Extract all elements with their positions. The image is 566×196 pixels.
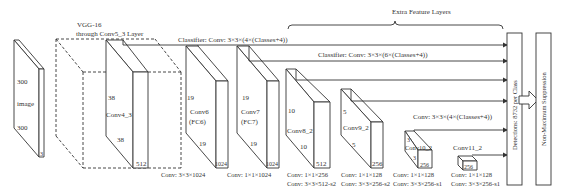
conv4-3-c: 512 (136, 160, 147, 168)
classifier-2-label: Classifier: Conv: 3×3×(6×(Classes+4)) (318, 51, 428, 59)
conv9-c: 256 (372, 160, 383, 168)
conv6-label: Conv6 (190, 108, 209, 116)
conv4-3-w: 38 (117, 136, 125, 144)
conv9-w: 5 (352, 141, 356, 149)
image-height: 300 (17, 78, 28, 86)
conv7-w: 19 (250, 140, 258, 148)
conv10-op1: Conv: 1×1×128 (393, 171, 434, 178)
conv8-c: 512 (316, 160, 327, 168)
conv11-op1: Conv: 1×1×128 (451, 171, 492, 178)
conv6-block (186, 46, 228, 168)
vgg-label-1: VGG-16 (77, 21, 102, 29)
image-label: image (17, 100, 34, 108)
classifier-1-label: Classifier: Conv: 3×3×(4×(Classes+4)) (178, 36, 288, 44)
conv10-label: Conv10_2 (405, 144, 432, 151)
input-image-block (14, 40, 44, 157)
conv7-sub: (FC7) (241, 118, 258, 126)
conv4-3-label: Conv4_3 (106, 111, 132, 119)
conv9-op2: Conv: 3×3×256-s2 (341, 180, 390, 187)
extra-feature-brace (288, 21, 503, 29)
conv6-op: Conv: 3×3×1024 (161, 171, 206, 178)
conv7-c: 1024 (266, 161, 278, 167)
image-width: 300 (17, 124, 28, 132)
conv8-op1: Conv: 1×1×256 (287, 171, 329, 178)
conv4-3-h: 38 (108, 94, 116, 102)
conv10-h: 3 (407, 137, 410, 143)
conv4-3-block (106, 40, 148, 168)
extra-feature-label: Extra Feature Layers (392, 8, 451, 16)
conv8-2-block (286, 69, 330, 168)
conv11-op2: Conv: 3×3×256-s1 (451, 180, 500, 187)
detections-label: Detections: 8732 per Class (511, 80, 518, 150)
image-channels: 3 (40, 151, 43, 157)
conv8-label: Conv8_2 (287, 127, 313, 135)
conv6-h: 19 (187, 94, 195, 102)
conv7-label: Conv7 (241, 108, 260, 116)
conv7-h: 19 (242, 94, 250, 102)
conv8-h: 10 (288, 107, 296, 115)
conv7-block (237, 46, 279, 168)
classifier-3-label: Conv: 3×3×(4×(Classes+4)) (413, 113, 493, 121)
conv6-sub: (FC6) (189, 118, 206, 126)
conv8-w: 10 (300, 143, 308, 151)
conv9-op1: Conv: 1×1×128 (341, 171, 382, 178)
vgg-label-2: through Conv5_3 Layer (76, 30, 144, 38)
conv10-w: 3 (413, 155, 416, 161)
conv6-c: 1024 (215, 161, 227, 167)
conv10-c: 256 (420, 162, 429, 168)
conv9-h: 5 (343, 108, 347, 116)
conv9-label: Conv9_2 (343, 124, 369, 132)
nms-label: Non-Maximum Suppression (540, 71, 547, 146)
conv11-label: Conv11_2 (453, 144, 482, 152)
conv10-op2: Conv: 3×3×256-s1 (393, 180, 442, 187)
conv7-op: Conv: 1×1×1024 (227, 171, 272, 178)
conv6-w: 19 (199, 140, 207, 148)
conv11-c: 256 (464, 164, 473, 170)
conv8-op2: Conv: 3×3×512-s2 (287, 180, 336, 187)
ssd-architecture-diagram: VGG-16 through Conv5_3 Layer Extra Featu… (0, 0, 566, 196)
